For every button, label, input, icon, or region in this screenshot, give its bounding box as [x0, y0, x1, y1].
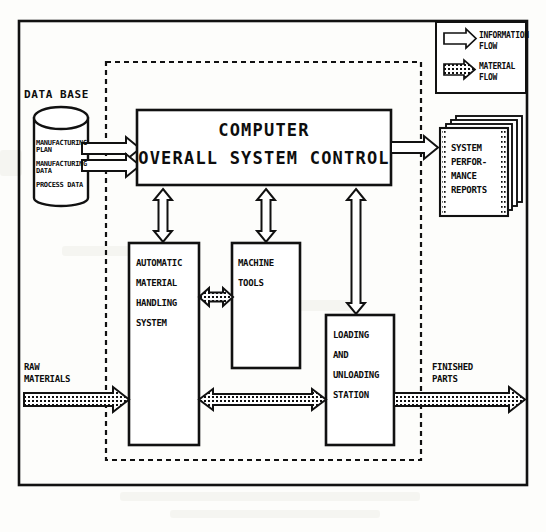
raw-materials-inflow-arrow [24, 387, 129, 412]
computer-to-machine-tools-arrow [257, 189, 275, 242]
computer-title-line2: OVERALL SYSTEM CONTROL [137, 148, 391, 169]
legend-information-flow-label: INFORMATION FLOW [479, 31, 529, 53]
amhs-loading-station-material-arrow [199, 389, 326, 410]
database-line-manufacturing-data: MANUFACTURING DATA [36, 161, 87, 176]
amhs-label: AUTOMATIC MATERIAL HANDLING SYSTEM [136, 258, 182, 329]
reports-label: SYSTEM PERFOR- MANCE REPORTS [451, 142, 487, 198]
database-title: DATA BASE [24, 88, 89, 101]
database-cylinder-shape [34, 107, 88, 206]
database-line-manufacturing-plan: MANUFACTURING PLAN [36, 140, 87, 155]
finished-parts-outflow-arrow [394, 387, 525, 412]
amhs-machine-tools-material-arrow [199, 288, 233, 306]
computer-to-reports-arrow [391, 136, 438, 159]
legend-material-flow-label: MATERIAL FLOW [479, 62, 515, 84]
machine-tools-label: MACHINE TOOLS [238, 258, 274, 288]
db-to-computer-arrow-lower [82, 154, 140, 177]
database-line-process-data: PROCESS DATA [36, 182, 83, 189]
loading-station-label: LOADING AND UNLOADING STATION [333, 330, 379, 401]
cim-diagram: DATA BASE MANUFACTURING PLAN MANUFACTURI… [0, 0, 546, 532]
computer-to-amhs-arrow [154, 189, 172, 242]
db-to-computer-arrow-upper [82, 137, 140, 160]
computer-title-line1: COMPUTER [137, 120, 391, 141]
raw-materials-label: RAW MATERIALS [24, 361, 70, 385]
computer-to-loading-station-arrow [347, 189, 365, 314]
finished-parts-label: FINISHED PARTS [432, 361, 473, 385]
